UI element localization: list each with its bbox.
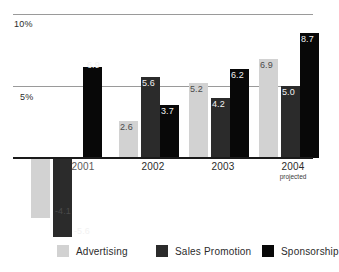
value-label-2003-advertising: 5.2 <box>190 84 203 94</box>
value-label-2002-sponsorship: 3.7 <box>161 106 174 116</box>
x-axis-label-2001: 2001 <box>48 161 118 172</box>
value-label-2004-sales-promotion: 5.0 <box>282 87 295 97</box>
bar-2004-sponsorship[interactable] <box>300 33 319 158</box>
legend-label-sponsorship: Sponsorship <box>281 246 339 257</box>
value-label-2002-advertising: 2.6 <box>120 122 133 132</box>
value-label-2002-sales-promotion: 5.6 <box>142 78 155 88</box>
chart-legend: Advertising Sales Promotion Sponsorship <box>0 243 333 263</box>
x-axis-label-2003-text: 2003 <box>211 161 234 172</box>
bar-group-2003 <box>171 14 241 158</box>
bar-2002-sales-promotion[interactable] <box>141 77 160 158</box>
value-label-2001-sales-promotion: -5.6 <box>74 226 90 236</box>
legend-label-sales-promotion: Sales Promotion <box>175 246 251 257</box>
x-axis-sublabel-2004-projected: projected <box>258 173 328 180</box>
value-label-2004-sponsorship: 8.7 <box>301 34 314 44</box>
x-axis-label-2001-text: 2001 <box>71 161 94 172</box>
x-axis-label-2003: 2003 <box>188 161 258 172</box>
value-label-2001-sponsorship: 6.9 <box>87 60 100 70</box>
bar-2004-advertising[interactable] <box>259 59 278 158</box>
plot-area <box>13 14 313 158</box>
value-label-2003-sales-promotion: 4.2 <box>212 99 225 109</box>
x-axis-label-2002: 2002 <box>118 161 188 172</box>
legend-label-advertising: Advertising <box>76 246 128 257</box>
legend-item-advertising[interactable]: Advertising <box>57 243 128 259</box>
bar-2001-sponsorship[interactable] <box>83 67 102 158</box>
x-axis-label-2002-text: 2002 <box>141 161 164 172</box>
legend-swatch-sales-promotion-icon <box>156 245 168 257</box>
value-label-2001-advertising: -4.1 <box>55 206 71 216</box>
legend-item-sponsorship[interactable]: Sponsorship <box>262 243 339 259</box>
value-label-2004-advertising: 6.9 <box>260 60 273 70</box>
bar-group-2001 <box>31 14 101 158</box>
value-label-2003-sponsorship: 6.2 <box>231 70 244 80</box>
legend-item-sales-promotion[interactable]: Sales Promotion <box>156 243 251 259</box>
legend-swatch-sponsorship-icon <box>262 245 274 257</box>
legend-swatch-advertising-icon <box>57 245 69 257</box>
bar-2003-advertising[interactable] <box>189 83 208 158</box>
x-axis-label-2004: 2004 projected <box>258 161 328 180</box>
y-axis-tick-10: 10% <box>14 19 33 29</box>
bar-group-2002 <box>101 14 171 158</box>
x-axis-label-2004-text: 2004 <box>281 161 304 172</box>
y-axis-tick-5: 5% <box>20 92 33 102</box>
